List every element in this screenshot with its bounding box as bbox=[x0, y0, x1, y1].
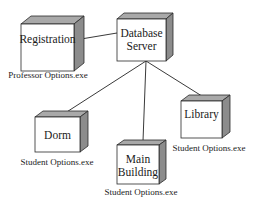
node-side-face bbox=[80, 111, 88, 152]
node-artifact-label: Student Options.exe bbox=[21, 157, 94, 167]
node-registration[interactable]: RegistrationProfessor Options.exe bbox=[8, 16, 88, 80]
node-artifact-label: Student Options.exe bbox=[173, 143, 246, 153]
nodes: RegistrationProfessor Options.exeDatabas… bbox=[8, 13, 245, 197]
node-artifact-label: Professor Options.exe bbox=[8, 70, 88, 80]
deployment-diagram: RegistrationProfessor Options.exeDatabas… bbox=[0, 0, 256, 199]
node-name: Library bbox=[184, 108, 219, 121]
node-side-face bbox=[159, 140, 166, 184]
node-top-face bbox=[21, 16, 84, 24]
node-name: Registration bbox=[19, 33, 75, 46]
node-dorm[interactable]: DormStudent Options.exe bbox=[21, 111, 94, 167]
node-side-face bbox=[166, 13, 173, 61]
node-main-building[interactable]: MainBuildingStudent Options.exe bbox=[105, 140, 178, 197]
node-name: Database bbox=[120, 27, 162, 39]
node-library[interactable]: LibraryStudent Options.exe bbox=[173, 95, 246, 153]
node-top-face bbox=[35, 111, 88, 117]
connection-registration-to-database-server bbox=[81, 33, 117, 39]
node-name: Dorm bbox=[44, 129, 71, 141]
node-name: Main bbox=[126, 153, 151, 165]
node-top-face bbox=[117, 13, 173, 19]
node-side-face bbox=[222, 95, 230, 138]
node-top-face bbox=[117, 140, 166, 145]
connection-database-server-to-main-building bbox=[143, 61, 146, 141]
node-name: Server bbox=[126, 40, 156, 52]
connection-database-server-to-library bbox=[146, 61, 205, 98]
node-database-server[interactable]: DatabaseServer bbox=[117, 13, 173, 61]
node-name: Building bbox=[118, 166, 159, 179]
node-artifact-label: Student Options.exe bbox=[105, 187, 178, 197]
node-front-face bbox=[21, 24, 74, 71]
